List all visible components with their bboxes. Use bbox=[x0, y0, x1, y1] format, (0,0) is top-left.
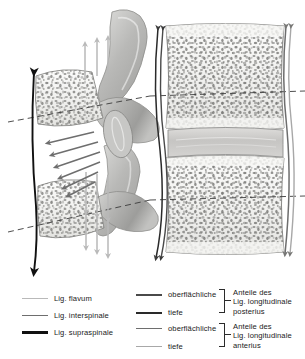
anatomical-figure bbox=[0, 0, 305, 282]
vertebrae-illustration bbox=[0, 0, 305, 282]
posterius-line-3: posterius bbox=[233, 307, 292, 316]
legend-label-post-superficial: oberflächliche bbox=[168, 290, 216, 299]
legend-item-lig-interspinale: Lig. interspinale bbox=[22, 309, 113, 322]
legend-swatch-ant-deep bbox=[136, 346, 162, 348]
legend-item-ant-deep: tiefe bbox=[136, 340, 216, 353]
anterius-line-3: anterius bbox=[233, 341, 292, 350]
legend-item-lig-flavum: Lig. flavum bbox=[22, 292, 113, 305]
vertebral-body-upper-trabeculae bbox=[164, 22, 288, 134]
legend-group-label-posterius: Anteile des Lig. longitudinale posterius bbox=[233, 288, 292, 316]
legend-label-ant-superficial: oberflächliche bbox=[168, 324, 216, 333]
brace-posterius bbox=[219, 289, 225, 313]
legend-swatch-post-deep bbox=[136, 312, 162, 314]
posterius-line-1: Anteile des bbox=[233, 288, 292, 297]
legend-item-lig-supraspinale: Lig. supraspinale bbox=[22, 326, 113, 339]
legend-item-ant-superficial: oberflächliche bbox=[136, 322, 216, 335]
legend-label-ant-deep: tiefe bbox=[168, 342, 183, 351]
brace-anterius bbox=[219, 323, 225, 347]
posterius-line-2: Lig. longitudinale bbox=[233, 297, 292, 306]
legend-label-post-deep: tiefe bbox=[168, 308, 183, 317]
anterius-line-1: Anteile des bbox=[233, 322, 292, 331]
legend-swatch-lig-supraspinale bbox=[22, 331, 48, 333]
legend-item-post-superficial: oberflächliche bbox=[136, 288, 216, 301]
brace-stem-posterius bbox=[224, 300, 231, 301]
legend-swatch-ant-superficial bbox=[136, 328, 162, 330]
legend-group-anterius: oberflächliche tiefe bbox=[136, 322, 216, 353]
legend-swatch-lig-interspinale bbox=[22, 315, 48, 317]
legend-label-lig-supraspinale: Lig. supraspinale bbox=[54, 328, 113, 337]
legend-swatch-post-superficial bbox=[136, 294, 162, 296]
legend-group-label-anterius: Anteile des Lig. longitudinale anterius bbox=[233, 322, 292, 350]
anterius-line-2: Lig. longitudinale bbox=[233, 331, 292, 340]
legend-label-lig-interspinale: Lig. interspinale bbox=[54, 311, 109, 320]
legend: Lig. flavum Lig. interspinale Lig. supra… bbox=[0, 282, 305, 359]
legend-item-post-deep: tiefe bbox=[136, 306, 216, 319]
legend-left-column: Lig. flavum Lig. interspinale Lig. supra… bbox=[22, 292, 113, 339]
legend-group-posterius: oberflächliche tiefe bbox=[136, 288, 216, 319]
brace-stem-anterius bbox=[224, 334, 231, 335]
vertebral-body-lower-trabeculae bbox=[164, 152, 288, 260]
legend-label-lig-flavum: Lig. flavum bbox=[54, 294, 92, 303]
legend-swatch-lig-flavum bbox=[22, 298, 48, 299]
vertebral-body-section bbox=[164, 22, 288, 260]
intervertebral-disc bbox=[168, 128, 283, 158]
